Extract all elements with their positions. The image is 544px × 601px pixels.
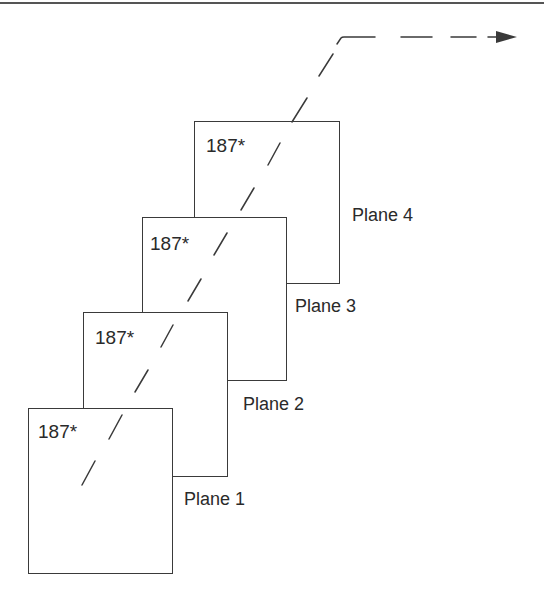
dashed-connector	[0, 0, 544, 601]
arrowhead-icon	[496, 31, 517, 43]
